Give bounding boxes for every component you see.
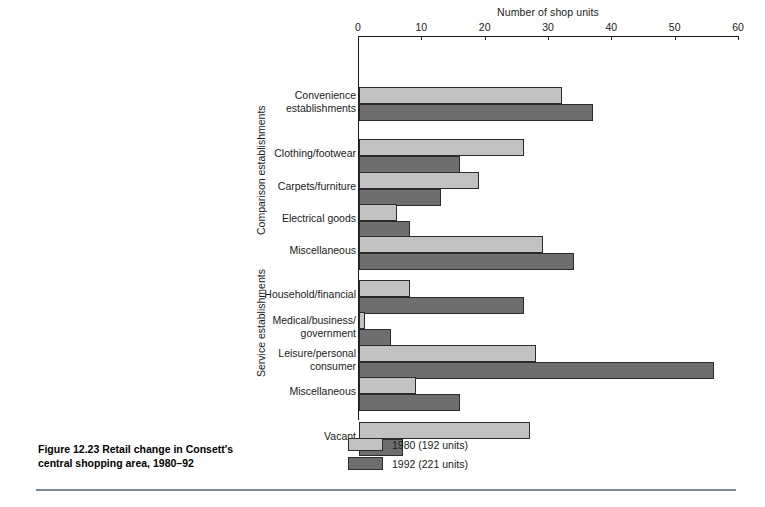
x-axis-title: Number of shop units xyxy=(358,6,738,18)
category-label: Clothing/footwear xyxy=(274,147,356,160)
bar-1980 xyxy=(359,345,536,362)
bar-1992 xyxy=(359,297,524,314)
plot-area: Convenience establishmentsClothing/footw… xyxy=(0,40,765,425)
bar-1980 xyxy=(359,172,479,189)
bar-1980 xyxy=(359,377,416,394)
figure-caption: Figure 12.23 Retail change in Consett's … xyxy=(38,443,268,470)
x-tick-label: 60 xyxy=(732,21,744,33)
bar-1980 xyxy=(359,280,410,297)
x-axis-tick-labels: 0102030405060 xyxy=(358,21,738,35)
legend-swatch xyxy=(348,457,383,470)
category-label: Carpets/furniture xyxy=(278,180,356,193)
legend-label: 1980 (192 units) xyxy=(392,439,468,451)
legend-swatch xyxy=(348,438,383,451)
bar-1992 xyxy=(359,394,460,411)
category-label: Convenience establishments xyxy=(286,89,356,114)
bar-1992 xyxy=(359,253,574,270)
x-tick-label: 30 xyxy=(542,21,554,33)
x-tick-label: 10 xyxy=(415,21,427,33)
category-label: Miscellaneous xyxy=(289,385,356,398)
group-label-service: Service establishments xyxy=(255,269,267,377)
bar-1992 xyxy=(359,104,593,121)
category-label: Medical/business/ government xyxy=(273,314,356,339)
legend-item: 1992 (221 units) xyxy=(348,456,468,471)
x-tick-label: 20 xyxy=(479,21,491,33)
legend-label: 1992 (221 units) xyxy=(392,458,468,470)
category-label: Electrical goods xyxy=(282,212,356,225)
category-label: Miscellaneous xyxy=(289,244,356,257)
x-tick-label: 0 xyxy=(355,21,361,33)
bar-1992 xyxy=(359,329,391,346)
legend: 1980 (192 units)1992 (221 units) xyxy=(348,437,468,475)
figure-container: Number of shop units 0102030405060 Conve… xyxy=(0,0,765,507)
category-label: Household/financial xyxy=(264,288,356,301)
bar-1980 xyxy=(359,236,543,253)
bar-1980 xyxy=(359,204,397,221)
x-tick-label: 50 xyxy=(669,21,681,33)
bar-1980 xyxy=(359,87,562,104)
group-label-comparison: Comparison establishments xyxy=(255,105,267,235)
footer-divider xyxy=(36,489,736,491)
bar-1992 xyxy=(359,156,460,173)
bar-1980 xyxy=(359,139,524,156)
x-tick-label: 40 xyxy=(605,21,617,33)
bar-1980 xyxy=(359,312,365,329)
category-label: Leisure/personal consumer xyxy=(278,347,356,372)
legend-item: 1980 (192 units) xyxy=(348,437,468,452)
